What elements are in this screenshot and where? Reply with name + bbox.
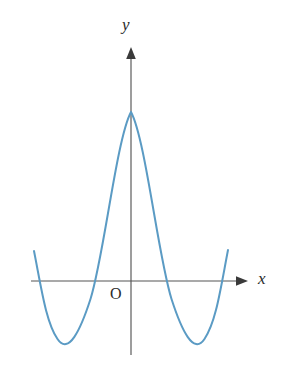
origin-label: O <box>110 286 122 302</box>
x-axis-label: x <box>258 270 266 287</box>
x-axis-arrowhead <box>236 276 248 286</box>
graph-figure: y x O <box>0 0 281 369</box>
coordinate-plane <box>0 0 281 369</box>
y-axis-arrowhead <box>126 47 136 59</box>
y-axis-label: y <box>122 16 130 33</box>
